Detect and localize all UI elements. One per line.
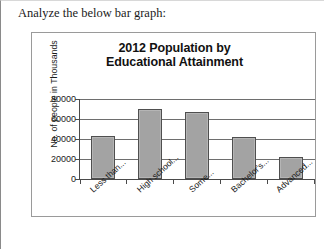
y-tick-mark [75,159,79,160]
y-axis-tick-labels: 80000 60000 40000 20000 0 [40,33,76,218]
plot-area: Less than... High school... Some... Bach… [79,33,315,218]
y-tick-label: 20000 [51,154,76,164]
x-tick-mark [220,179,221,184]
chart-panel: 2012 Population by Educational Attainmen… [31,32,316,217]
y-tick-mark [75,139,79,140]
x-tick-mark [173,179,174,184]
gridline [79,99,315,100]
x-tick-mark [126,179,127,184]
document-page: Analyze the below bar graph: 2012 Popula… [0,0,324,249]
y-tick-label: 80000 [51,94,76,104]
y-axis-line [79,99,80,179]
y-tick-mark [75,99,79,100]
x-tick-mark [80,179,81,184]
page-prompt-text: Analyze the below bar graph: [18,6,166,21]
y-tick-label: 40000 [51,134,76,144]
x-tick-mark [314,179,315,184]
y-tick-mark [75,119,79,120]
x-tick-mark [267,179,268,184]
y-tick-label: 60000 [51,114,76,124]
